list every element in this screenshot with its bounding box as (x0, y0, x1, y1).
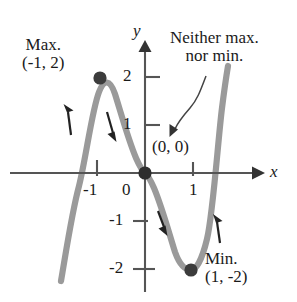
increasing-left-arrow-shaft (68, 112, 71, 135)
y-axis-arrowhead (139, 40, 152, 52)
x-tick-label-1: 1 (189, 180, 198, 200)
origin-tick-label: 0 (122, 180, 131, 200)
maximum-label-line2: (-1, 2) (22, 54, 64, 72)
maximum-point-dot (93, 71, 106, 84)
origin-point-label: (0, 0) (152, 138, 189, 156)
increasing-right-arrowhead (213, 214, 223, 223)
minimum-label-line1: Min. (205, 250, 247, 268)
y-tick-label-2: 2 (123, 66, 132, 86)
increasing-left-arrowhead (64, 104, 74, 113)
y-tick-label-neg1: -1 (109, 210, 123, 230)
maximum-label: Max. (-1, 2) (22, 36, 64, 72)
x-tick-label-neg1: -1 (83, 180, 97, 200)
y-tick-label-neg2: -2 (109, 258, 123, 278)
maximum-label-line1: Max. (22, 36, 64, 54)
minimum-point-dot (184, 263, 197, 276)
origin-point-dot (138, 166, 151, 179)
graph-figure: Max. (-1, 2) Neither max. nor min. Min. … (0, 0, 297, 302)
x-axis-label: x (270, 163, 278, 181)
neither-label-line1: Neither max. (170, 29, 259, 47)
y-tick-label-1: 1 (123, 114, 132, 134)
neither-pointer-arrow (175, 76, 206, 129)
increasing-right-arrow-shaft (217, 222, 220, 243)
y-axis-label: y (133, 22, 141, 40)
neither-label: Neither max. nor min. (170, 29, 259, 65)
x-axis-arrowhead (252, 167, 265, 180)
decreasing-upper-arrowhead (108, 132, 117, 143)
decreasing-upper-arrow-shaft (107, 112, 113, 133)
neither-label-line2: nor min. (170, 47, 259, 65)
minimum-label: Min. (1, -2) (205, 250, 247, 286)
minimum-label-line2: (1, -2) (205, 268, 247, 286)
